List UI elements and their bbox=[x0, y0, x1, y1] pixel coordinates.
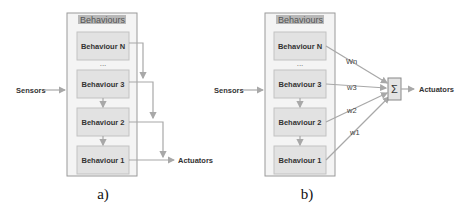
behaviour-n-label: Behaviour N bbox=[278, 42, 322, 51]
behaviour-diagrams: Behaviours Behaviour N ... Behaviour 3 B… bbox=[0, 0, 462, 215]
actuators-label: Actuators bbox=[419, 85, 454, 94]
actuators-label: Actuators bbox=[178, 156, 213, 165]
ellipsis: ... bbox=[297, 59, 304, 68]
sensors-label: Sensors bbox=[214, 86, 244, 95]
diagram-a: Behaviours Behaviour N ... Behaviour 3 B… bbox=[16, 13, 213, 203]
caption-b: b) bbox=[301, 186, 314, 203]
behaviour-3-label: Behaviour 3 bbox=[279, 80, 322, 89]
sensors-label: Sensors bbox=[16, 86, 46, 95]
container-title: Behaviours bbox=[80, 15, 126, 25]
diagram-b: Behaviours Behaviour N ... Behaviour 3 B… bbox=[214, 13, 454, 203]
ellipsis: ... bbox=[100, 59, 107, 68]
sigma-icon: Σ bbox=[391, 83, 398, 95]
weight-w2: w2 bbox=[346, 106, 357, 115]
behaviour-3-label: Behaviour 3 bbox=[82, 80, 125, 89]
weight-w3: w3 bbox=[346, 83, 357, 92]
weight-w1: w1 bbox=[349, 128, 360, 137]
behaviour-1-label: Behaviour 1 bbox=[82, 156, 125, 165]
caption-a: a) bbox=[97, 186, 109, 203]
behaviour-2-label: Behaviour 2 bbox=[82, 118, 125, 127]
behaviour-n-label: Behaviour N bbox=[81, 42, 125, 51]
behaviour-2-label: Behaviour 2 bbox=[279, 118, 322, 127]
weight-wn: Wn bbox=[346, 57, 357, 66]
container-title: Behaviours bbox=[278, 15, 324, 25]
behaviour-1-label: Behaviour 1 bbox=[279, 156, 322, 165]
